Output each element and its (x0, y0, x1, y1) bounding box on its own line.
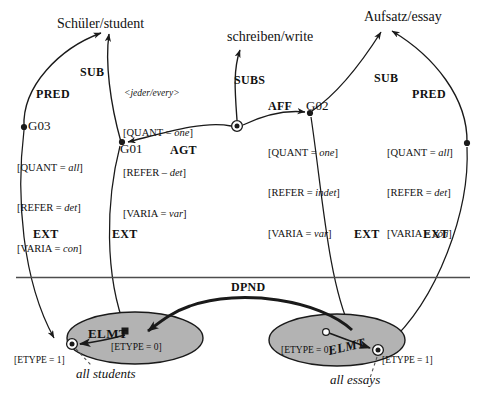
attr-value: one (319, 147, 334, 158)
attr-row: [QUANT = one] (123, 126, 193, 139)
attr-op: = (160, 208, 166, 219)
node-dot-g03 (21, 124, 27, 130)
attr-op: = (430, 147, 436, 158)
attr-row: [REFER – det] (123, 166, 193, 179)
node-element-students-inner (70, 342, 75, 347)
concept-student: Schüler/student (57, 16, 144, 32)
node-label-g01: G01 (120, 142, 142, 157)
attr-row: [VARIA = con] (387, 227, 453, 240)
etype-element-essays: [ETYPE = 1] (382, 355, 433, 366)
attr-op: = (60, 162, 66, 173)
attr-key: REFER (21, 202, 54, 213)
gloss-all-essays: all essays (330, 373, 380, 388)
node-dot-g04 (464, 140, 470, 146)
relation-dpnd: DPND (231, 281, 266, 294)
attr-row: [REFER = indet] (268, 186, 340, 199)
attr-value: all (438, 147, 449, 158)
attr-key: REFER (272, 187, 305, 198)
node-attrs-g02: [QUANT = one] [REFER = indet] [VARIA = v… (268, 119, 340, 267)
attr-key: VARIA (272, 228, 303, 239)
relation-subs: SUBS (234, 74, 265, 87)
node-label-g03: G03 (28, 119, 50, 134)
relation-elmt-left: ELMT (88, 327, 128, 342)
attr-op: = (426, 187, 432, 198)
attr-key: VARIA (391, 228, 422, 239)
relation-sub-right: SUB (374, 72, 398, 85)
attr-value: con (433, 228, 448, 239)
relation-pred-right: PRED (412, 88, 446, 101)
relation-sub-left: SUB (80, 66, 104, 79)
attr-row: [REFER = det] (17, 201, 83, 214)
edge-sub-left (108, 34, 121, 142)
attr-op: = (54, 243, 60, 254)
node-element-essays-inner (376, 348, 381, 353)
attr-value: one (174, 127, 189, 138)
attr-value: det (64, 202, 77, 213)
concept-essay: Aufsatz/essay (364, 9, 442, 25)
attr-op: = (424, 228, 430, 239)
relation-ext-3: EXT (354, 228, 380, 241)
attr-key: QUANT (21, 162, 58, 173)
node-hub-inner (235, 124, 240, 129)
relation-pred-left: PRED (36, 88, 70, 101)
attr-value: var (169, 208, 183, 219)
node-attrs-g03: [QUANT = all] [REFER = det] [VARIA = con… (17, 134, 83, 282)
attr-row: [VARIA = var] (268, 227, 340, 240)
attr-key: VARIA (127, 208, 158, 219)
attr-op: = (56, 202, 62, 213)
node-angle-label-g01: <jeder/every> (124, 88, 180, 99)
attr-value: var (314, 228, 328, 239)
attr-row: [QUANT = all] (17, 161, 83, 174)
edge-pred-left (24, 33, 101, 127)
node-attrs-g01: [QUANT = one] [REFER – det] [VARIA = var… (123, 99, 193, 247)
relation-aff: AFF (268, 100, 292, 113)
etype-set-students: [ETYPE = 0] (111, 342, 162, 353)
attr-value: det (170, 167, 183, 178)
attr-op: – (162, 167, 167, 178)
attr-op: = (311, 147, 317, 158)
attr-value: indet (315, 187, 336, 198)
etype-element-students: [ETYPE = 1] (14, 355, 65, 366)
attr-key: REFER (391, 187, 424, 198)
attr-row: [VARIA = con] (17, 242, 83, 255)
attr-op: = (305, 228, 311, 239)
attr-row: [REFER = det] (387, 186, 453, 199)
attr-key: QUANT (391, 147, 428, 158)
attr-value: all (68, 162, 79, 173)
attr-value: det (434, 187, 447, 198)
gloss-all-students: all students (76, 367, 136, 382)
attr-key: QUANT (127, 127, 164, 138)
etype-set-essays: [ETYPE = 0] (281, 345, 332, 356)
node-label-g02: G02 (306, 99, 328, 114)
node-set-essays (323, 329, 330, 336)
concept-write: schreiben/write (227, 29, 313, 45)
attr-value: con (63, 243, 78, 254)
attr-key: QUANT (272, 147, 309, 158)
attr-key: VARIA (21, 243, 52, 254)
attr-row: [QUANT = all] (387, 146, 453, 159)
attr-row: [QUANT = one] (268, 146, 340, 159)
attr-op: = (166, 127, 172, 138)
attr-row: [VARIA = var] (123, 207, 193, 220)
attr-key: REFER (127, 167, 160, 178)
node-attrs-g04: [QUANT = all] [REFER = det] [VARIA = con… (387, 119, 453, 267)
attr-op: = (307, 187, 313, 198)
diagram-canvas: Schüler/student schreiben/write Aufsatz/… (0, 0, 478, 399)
